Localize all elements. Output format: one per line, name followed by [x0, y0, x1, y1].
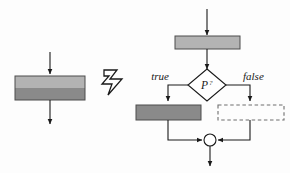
left-compound-activity — [15, 52, 85, 124]
left-block-bottom-half — [15, 88, 85, 100]
decision-label-suffix: ? — [209, 79, 213, 87]
false-branch-line — [226, 85, 250, 101]
false-branch-label: false — [243, 70, 264, 82]
dashed-block-outline — [218, 105, 284, 120]
right-refined-flowchart: P ? true false — [136, 9, 284, 166]
false-merge-line — [218, 120, 250, 140]
diagram-canvas: P ? true false — [0, 0, 290, 173]
decision-label: P — [200, 79, 208, 91]
left-block-top-half — [15, 76, 85, 88]
right-light-action-block[interactable] — [175, 36, 240, 49]
left-two-tone-block[interactable] — [15, 76, 85, 100]
zigzag-transform-arrow — [102, 70, 122, 95]
true-branch-line — [168, 85, 188, 101]
right-empty-dashed-block[interactable] — [218, 105, 284, 120]
dark-action-fill — [136, 105, 201, 120]
merge-circle[interactable] — [204, 134, 216, 146]
light-action-fill — [175, 36, 240, 49]
true-merge-line — [168, 120, 202, 140]
zigzag-arrow-right-icon — [102, 70, 122, 95]
right-dark-action-block[interactable] — [136, 105, 201, 120]
decision-diamond[interactable]: P ? — [188, 69, 226, 101]
true-branch-label: true — [151, 70, 169, 82]
